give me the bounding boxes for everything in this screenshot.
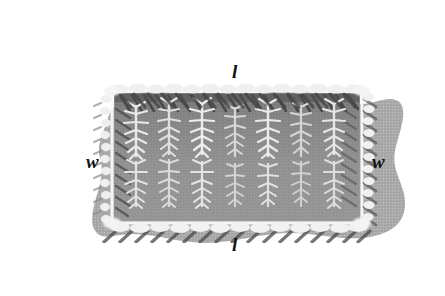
edging-tufts-left: [100, 95, 111, 223]
width-label-left: w: [86, 152, 99, 171]
length-label-bottom: l: [232, 235, 237, 254]
garden-bed-svg: [90, 75, 386, 243]
width-label-right: w: [372, 152, 385, 171]
figure-canvas: l l w w: [0, 0, 445, 296]
garden-bed: [112, 91, 362, 223]
length-label-top: l: [232, 62, 237, 81]
